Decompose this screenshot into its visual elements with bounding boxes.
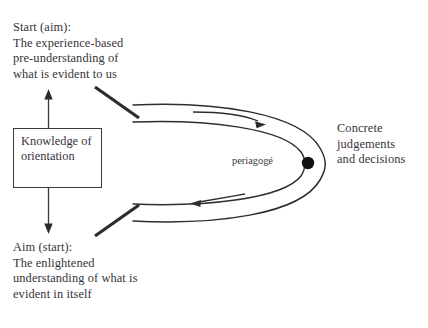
concrete-judgements-text: Concrete judgements and decisions [337,121,405,168]
diagram-canvas: Knowledge of orientation Start (aim): Th… [0,0,428,328]
connector-upper-diagonal [95,87,139,118]
knowledge-of-orientation-box: Knowledge of orientation [13,128,102,188]
arrow-down-to-aim-icon [44,188,52,234]
loop-outer-curve [133,104,325,222]
periagoge-node-dot [302,157,314,169]
start-aim-text: Start (aim): The experience-based pre-un… [13,20,123,82]
arrow-loop-forward-icon [193,112,266,128]
connector-lower-diagonal [95,205,139,236]
knowledge-of-orientation-label: Knowledge of orientation [21,134,92,165]
aim-start-text: Aim (start): The enlightened understandi… [13,240,138,302]
loop-inner-curve [133,121,305,204]
arrow-loop-return-icon [190,194,245,207]
periagoge-label: periagogé [232,155,273,166]
arrow-up-to-start-icon [44,89,52,128]
